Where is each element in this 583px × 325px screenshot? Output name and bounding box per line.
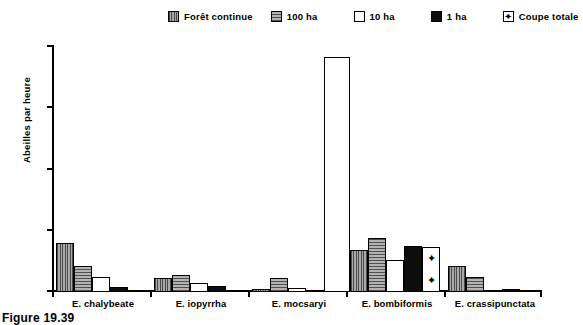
plot-area: E. chalybeate E. iopyrrha ✦✦✦✦✦ [52,45,542,292]
bar-e-chalybeate-foret-continue[interactable] [56,243,74,292]
x-axis-label-e-bombiformis: E. bombiformis [362,298,433,309]
legend-label-10-ha: 10 ha [370,11,395,22]
bar-group-e-chalybeate [56,45,150,292]
legend-swatch-foret-continue-icon [168,11,179,22]
bar-e-crassipunctata-foret-continue[interactable] [448,266,466,292]
bar-e-mocsaryi-100-ha[interactable] [270,278,288,292]
y-axis-title: Abeilles par heure [21,77,32,163]
bar-group-e-mocsaryi: ✦✦✦✦✦ ✦✦✦✦✦ [252,45,346,292]
highlight-box-e-mocsaryi-coupe-totale [324,57,350,292]
bar-group-e-iopyrrha [154,45,248,292]
bar-e-iopyrrha-1-ha[interactable] [208,286,226,292]
bar-e-iopyrrha-foret-continue[interactable] [154,278,172,292]
bar-group-e-crassipunctata [448,45,542,292]
bar-e-mocsaryi-10-ha[interactable] [288,288,306,292]
legend-label-100-ha: 100 ha [287,11,318,22]
star-pattern-icon: ✦✦ [423,248,439,291]
legend-item-coupe-totale: Coupe totale [503,11,579,22]
x-axis-label-e-crassipunctata: E. crassipunctata [455,298,535,309]
bar-e-chalybeate-100-ha[interactable] [74,266,92,292]
figure-caption: Figure 19.39 [2,311,74,325]
legend-label-1-ha: 1 ha [447,11,467,22]
bar-e-chalybeate-1-ha[interactable] [110,287,128,292]
x-axis-label-e-chalybeate: E. chalybeate [72,298,134,309]
bar-e-crassipunctata-10-ha[interactable] [484,290,502,292]
bar-e-iopyrrha-10-ha[interactable] [190,283,208,292]
y-tick-2 [47,229,53,231]
x-tick-4 [444,290,446,297]
legend-item-10-ha: 10 ha [354,11,395,22]
bar-e-crassipunctata-1-ha[interactable] [502,289,520,292]
legend-swatch-1-ha-icon [431,11,442,22]
x-tick-0 [52,290,54,297]
bar-e-chalybeate-10-ha[interactable] [92,277,110,292]
x-tick-1 [150,290,152,297]
bar-e-mocsaryi-1-ha[interactable] [306,290,324,292]
bar-e-bombiformis-coupe-totale[interactable]: ✦✦ [422,247,440,292]
x-axis-label-e-iopyrrha: E. iopyrrha [176,298,227,309]
legend-label-coupe-totale: Coupe totale [519,11,579,22]
x-tick-2 [248,290,250,297]
legend-item-1-ha: 1 ha [431,11,467,22]
legend-label-foret-continue: Forêt continue [184,11,253,22]
legend-swatch-100-ha-icon [271,11,282,22]
chart-legend: Forêt continue 100 ha 10 ha 1 ha Coupe t… [168,11,583,22]
legend-item-foret-continue: Forêt continue [168,11,253,22]
legend-swatch-coupe-totale-icon [503,11,514,22]
bar-e-bombiformis-100-ha[interactable] [368,238,386,292]
y-tick-6 [47,106,53,108]
bar-e-bombiformis-foret-continue[interactable] [350,250,368,292]
legend-swatch-10-ha-icon [354,11,365,22]
bar-e-crassipunctata-100-ha[interactable] [466,277,484,292]
bar-e-bombiformis-1-ha[interactable] [404,246,422,292]
legend-item-100-ha: 100 ha [271,11,318,22]
y-tick-4 [47,168,53,170]
y-tick-8 [47,45,53,47]
bar-e-iopyrrha-100-ha[interactable] [172,275,190,292]
bar-e-mocsaryi-foret-continue[interactable] [252,289,270,292]
x-axis-label-e-mocsaryi: E. mocsaryi [272,298,326,309]
bar-group-e-bombiformis: ✦✦ [350,45,444,292]
bar-e-bombiformis-10-ha[interactable] [386,260,404,292]
